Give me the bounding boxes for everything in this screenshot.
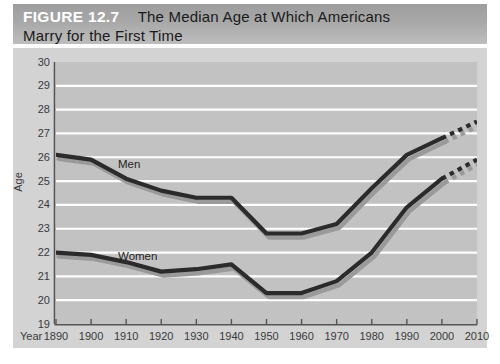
plot-area xyxy=(56,62,477,324)
y-tick-label: 19 xyxy=(24,319,50,330)
gridlines xyxy=(56,86,477,300)
x-tick-label: 1950 xyxy=(247,330,287,342)
figure-container: FIGURE 12.7 The Median Age at Which Amer… xyxy=(0,0,500,364)
x-axis-title: Year xyxy=(20,330,42,342)
y-tick-label: 25 xyxy=(24,176,50,187)
x-axis-tick-labels: 1890190019101920193019401950196019701980… xyxy=(0,330,500,346)
x-tick-label: 1940 xyxy=(211,330,251,342)
y-tick-label: 28 xyxy=(24,104,50,115)
x-tick-label: 1910 xyxy=(106,330,146,342)
x-tick-label: 2000 xyxy=(422,330,462,342)
figure-title-line-1: FIGURE 12.7 The Median Age at Which Amer… xyxy=(23,7,487,26)
y-axis-tick-labels: 302928272625242322212019 xyxy=(22,0,50,364)
x-tick-label: 1990 xyxy=(387,330,427,342)
y-tick-label: 22 xyxy=(24,247,50,258)
y-tick-label: 30 xyxy=(24,57,50,68)
figure-title-line-2: Marry for the First Time xyxy=(23,26,487,45)
x-tick-label: 2010 xyxy=(457,330,497,342)
figure-footnote xyxy=(20,357,480,364)
y-tick-label: 27 xyxy=(24,128,50,139)
series-label-men: Men xyxy=(118,158,140,170)
y-tick-label: 26 xyxy=(24,152,50,163)
x-tick-label: 1930 xyxy=(176,330,216,342)
y-tick-label: 24 xyxy=(24,199,50,210)
x-tick-label: 1980 xyxy=(352,330,392,342)
y-tick-label: 29 xyxy=(24,80,50,91)
figure-title-banner: FIGURE 12.7 The Median Age at Which Amer… xyxy=(13,4,487,44)
x-tick-label: 1900 xyxy=(71,330,111,342)
y-tick-label: 23 xyxy=(24,223,50,234)
figure-title-text: The Median Age at Which Americans xyxy=(138,8,391,25)
x-tick-label: 1920 xyxy=(141,330,181,342)
y-tick-label: 20 xyxy=(24,295,50,306)
y-tick-label: 21 xyxy=(24,271,50,282)
series-label-women: Women xyxy=(118,250,157,262)
x-tick-label: 1970 xyxy=(317,330,357,342)
chart-svg xyxy=(56,62,477,324)
x-tick-label: 1960 xyxy=(282,330,322,342)
